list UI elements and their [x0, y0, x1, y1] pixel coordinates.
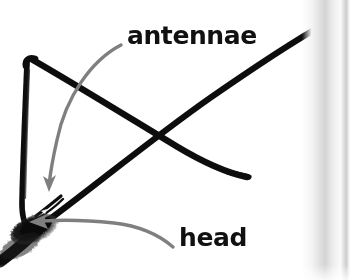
label-antennae: antennae	[127, 23, 257, 48]
label-head: head	[179, 225, 247, 250]
ascending-antenna-tip	[316, 19, 334, 30]
ascending-antenna-stroke	[38, 20, 332, 228]
antennae-arrow-shaft	[49, 45, 121, 185]
descending-antenna-tip	[228, 172, 249, 177]
descending-antenna-stroke	[33, 60, 247, 177]
head-mass-group	[0, 208, 62, 266]
figure-page: antennae head	[0, 0, 350, 280]
head-arrow-shaft	[43, 220, 173, 247]
